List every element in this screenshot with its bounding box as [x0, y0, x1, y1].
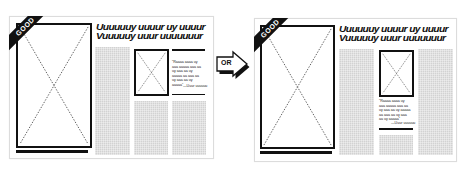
pullquote-rule-right [379, 128, 413, 130]
image-placeholder-icon [381, 52, 412, 95]
text-column-2-left [134, 101, 168, 155]
arrow-label: OR [221, 59, 232, 66]
pullquote-bottom-rule-left [172, 94, 205, 95]
pullquote-attribution-left: —Uuur uuuuuu [183, 84, 207, 88]
pullquote-attribution-right: —Uuur uuuuuu [391, 121, 415, 125]
text-column-1-right [339, 49, 374, 155]
small-image-placeholder-left [134, 49, 169, 96]
headline-line-2: Vuuuuuy uuur uuuuuuur [339, 33, 448, 42]
text-column-2-right [379, 135, 413, 155]
pullquote-top-rule-left [172, 49, 205, 51]
image-placeholder-icon [136, 51, 167, 94]
text-column-1-left [95, 47, 130, 155]
text-column-3-left [172, 101, 206, 155]
good-badge-label: GOOD [254, 18, 294, 54]
headline-left: Uuuuuuy uuuur uy uuuur Vuuuuuy uuur uuuu… [96, 22, 205, 40]
pullquote-text-right: “Raaaa aaaa uy aaa aaaaa aaa aa uy aaa a… [379, 99, 411, 122]
small-image-placeholder-right [379, 50, 414, 97]
text-column-3-right [418, 49, 453, 155]
caption-rule-right [260, 151, 332, 154]
headline-line-2: Vuuuuuy uuur uuuuuuur [96, 31, 205, 40]
good-badge-label: GOOD [9, 16, 49, 52]
caption-rule-left [16, 150, 88, 153]
headline-right: Uuuuuuy uuuur uy uuuur Vuuuuuy uuur uuuu… [339, 24, 448, 42]
